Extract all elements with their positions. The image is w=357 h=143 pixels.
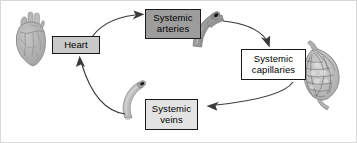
- node-systemic-arteries[interactable]: Systemic arteries: [145, 9, 201, 39]
- node-systemic-capillaries-label-line1: Systemic: [252, 54, 295, 65]
- node-heart-label: Heart: [64, 40, 88, 51]
- node-systemic-veins-label: Systemic veins: [152, 104, 191, 125]
- node-systemic-veins-label-line2: veins: [152, 115, 191, 126]
- arrow-capillaries-to-veins: [207, 82, 294, 111]
- node-systemic-arteries-label: Systemic arteries: [153, 13, 192, 34]
- node-systemic-capillaries-label-line2: capillaries: [252, 65, 295, 76]
- arrow-veins-to-heart: [76, 56, 125, 114]
- capillary-bed-illustration: [304, 41, 339, 111]
- node-systemic-arteries-label-line2: arteries: [153, 24, 192, 35]
- systemic-circulation-diagram: Heart Systemic arteries Systemic capilla…: [0, 0, 357, 143]
- node-heart[interactable]: Heart: [52, 36, 100, 54]
- arrow-arteries-to-capillaries: [223, 21, 270, 47]
- node-systemic-capillaries-label: Systemic capillaries: [252, 54, 295, 75]
- heart-illustration: [16, 12, 45, 66]
- node-systemic-veins[interactable]: Systemic veins: [145, 99, 198, 130]
- vein-vessel-illustration: [123, 79, 147, 119]
- node-systemic-capillaries[interactable]: Systemic capillaries: [241, 49, 306, 80]
- node-systemic-veins-label-line1: Systemic: [152, 104, 191, 115]
